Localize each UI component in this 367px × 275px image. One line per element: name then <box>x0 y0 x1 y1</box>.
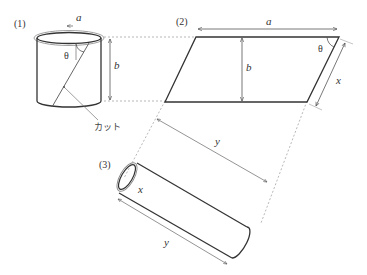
a-label-1: a <box>76 11 82 23</box>
cylinder-top <box>37 33 101 44</box>
theta-label-2: θ <box>318 43 323 54</box>
theta-label-1: θ <box>64 50 69 61</box>
diagram-canvas: (1) θ a b カット (2) <box>0 0 367 275</box>
dashed-connectors <box>104 37 307 223</box>
panel-2-label: (2) <box>176 16 188 28</box>
panel-1-cylinder: (1) θ a b カット <box>14 11 121 132</box>
y-label-3: y <box>163 236 169 248</box>
panel-3-label: (3) <box>99 159 111 171</box>
a-label-2: a <box>266 15 272 27</box>
x-label-3: x <box>137 183 143 195</box>
cut-line <box>52 43 89 107</box>
cut-label: カット <box>94 122 121 132</box>
panel-1-label: (1) <box>14 18 26 30</box>
cylinder-bottom <box>37 101 101 107</box>
x-label-2: x <box>335 74 341 86</box>
panel-2-parallelogram: (2) a b θ x y <box>157 15 353 182</box>
panel-3-tube: (3) x y <box>99 159 250 264</box>
parallelogram <box>165 37 339 102</box>
b-label-2: b <box>246 61 252 73</box>
diagram-svg: (1) θ a b カット (2) <box>0 0 367 275</box>
b-label-1: b <box>114 59 120 71</box>
y-label-2: y <box>214 135 220 147</box>
